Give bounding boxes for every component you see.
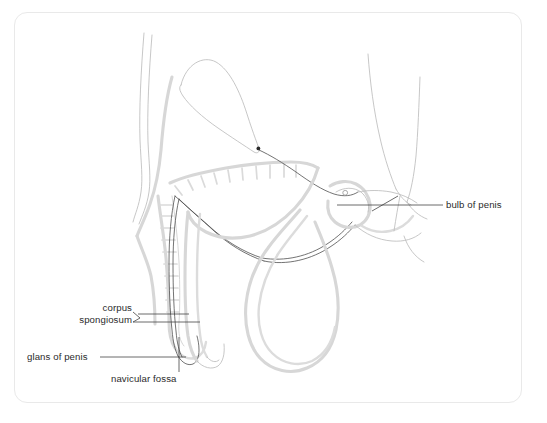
- figure-stage: .tissue { fill:none; stroke:#d7d7d7; str…: [0, 0, 547, 423]
- leader-corpus-spongiosum-bracket: [133, 312, 140, 322]
- bulb-of-penis: [328, 182, 413, 232]
- penile-shaft: [185, 168, 318, 368]
- bladder: [180, 60, 260, 153]
- thigh-outline: [368, 54, 427, 219]
- label-corpus-spongiosum-line1: corpus: [103, 302, 132, 313]
- label-corpus-spongiosum: corpusspongiosum: [36, 302, 132, 327]
- rectum: [158, 162, 318, 359]
- bladder-neck-marker-dot: [257, 147, 261, 151]
- label-corpus-spongiosum-line2: spongiosum: [36, 314, 132, 326]
- label-glans-of-penis: glans of penis: [27, 351, 88, 363]
- label-navicular-fossa: navicular fossa: [111, 373, 177, 385]
- abdominal-wall-contours: [133, 33, 152, 224]
- label-bulb-of-penis: bulb of penis: [446, 199, 502, 211]
- leader-bulb-tick: [372, 196, 398, 211]
- bulb-marker-circle: [343, 190, 348, 195]
